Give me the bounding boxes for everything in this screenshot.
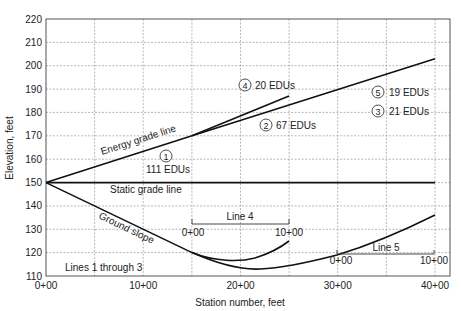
edu-marker-5: 5 19 EDUs [372, 86, 429, 98]
y-tick-160: 160 [25, 154, 42, 165]
svg-text:2: 2 [263, 121, 268, 131]
ground-slope-label: Ground slope [97, 210, 156, 246]
x-tick-20: 20+00 [226, 280, 255, 291]
edu-5-text: 19 EDUs [389, 87, 429, 98]
line4-label: Line 4 [226, 211, 254, 222]
y-tick-190: 190 [25, 84, 42, 95]
y-axis-title: Elevation, feet [4, 116, 15, 180]
edu-4-text: 20 EDUs [255, 80, 295, 91]
edu-1-text: 111 EDUs [146, 164, 190, 175]
x-tick-0: 0+00 [35, 280, 58, 291]
energy-grade-line-branch [192, 96, 289, 136]
line5-label: Line 5 [372, 242, 400, 253]
svg-text:3: 3 [375, 107, 380, 117]
chart: 110 120 130 140 150 160 170 180 190 200 … [0, 0, 461, 311]
y-tick-220: 220 [25, 14, 42, 25]
edu-marker-2: 2 67 EDUs [260, 119, 316, 131]
line5-end-label: 10+00 [420, 255, 449, 266]
x-axis-ticks: 0+00 10+00 20+00 30+00 40+00 [35, 280, 450, 291]
y-tick-200: 200 [25, 60, 42, 71]
edu-marker-3: 3 21 EDUs [372, 105, 429, 117]
static-grade-label: Static grade line [110, 184, 182, 195]
line4-start-label: 0+00 [182, 227, 205, 238]
lines-1-3-label: Lines 1 through 3 [65, 262, 143, 273]
edu-marker-1: 1 111 EDUs [146, 150, 190, 175]
x-tick-40: 40+00 [421, 280, 450, 291]
svg-text:4: 4 [242, 81, 247, 91]
line5-bracket: Line 5 0+00 10+00 [330, 242, 449, 266]
y-tick-130: 130 [25, 224, 42, 235]
x-tick-30: 30+00 [324, 280, 353, 291]
y-tick-180: 180 [25, 107, 42, 118]
edu-2-text: 67 EDUs [276, 120, 316, 131]
line5-start-label: 0+00 [330, 255, 353, 266]
y-axis-ticks: 110 120 130 140 150 160 170 180 190 200 … [25, 14, 42, 282]
y-tick-170: 170 [25, 130, 42, 141]
line4-bracket: Line 4 0+00 10+00 [182, 211, 304, 238]
y-tick-140: 140 [25, 200, 42, 211]
y-tick-150: 150 [25, 177, 42, 188]
edu-3-text: 21 EDUs [389, 106, 429, 117]
y-tick-120: 120 [25, 247, 42, 258]
line4-end-label: 10+00 [275, 227, 304, 238]
y-tick-210: 210 [25, 37, 42, 48]
svg-text:1: 1 [163, 152, 168, 162]
edu-marker-4: 4 20 EDUs [239, 79, 295, 91]
svg-text:5: 5 [375, 88, 380, 98]
x-axis-title: Station number, feet [195, 297, 285, 308]
x-tick-10: 10+00 [129, 280, 158, 291]
